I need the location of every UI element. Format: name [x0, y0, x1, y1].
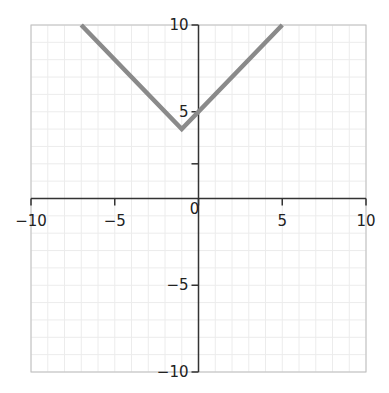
y-tick-label: −10 — [157, 363, 189, 381]
x-tick-label: −5 — [104, 212, 126, 230]
x-tick-label: 0 — [190, 200, 200, 218]
y-tick-label: 5 — [179, 103, 189, 121]
x-tick-label: 10 — [356, 212, 375, 230]
x-tick-label: −10 — [15, 212, 47, 230]
y-tick-label: −5 — [166, 276, 188, 294]
y-tick-label: 10 — [169, 16, 188, 34]
x-tick-label: 5 — [277, 212, 287, 230]
chart: −10−50510−10−5510 — [0, 0, 389, 393]
